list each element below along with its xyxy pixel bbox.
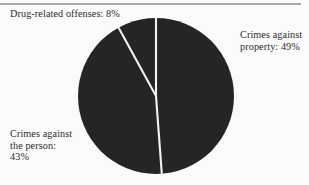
pie-chart-figure: Drug-related offenses: 8% Crimes against… xyxy=(0,0,309,185)
slice-label-drug-related-offenses: Drug-related offenses: 8% xyxy=(10,8,190,20)
slice-label-crimes-against-the-person: Crimes against the person: 43% xyxy=(10,128,100,163)
slice-label-crimes-against-property: Crimes against property: 49% xyxy=(240,29,309,52)
